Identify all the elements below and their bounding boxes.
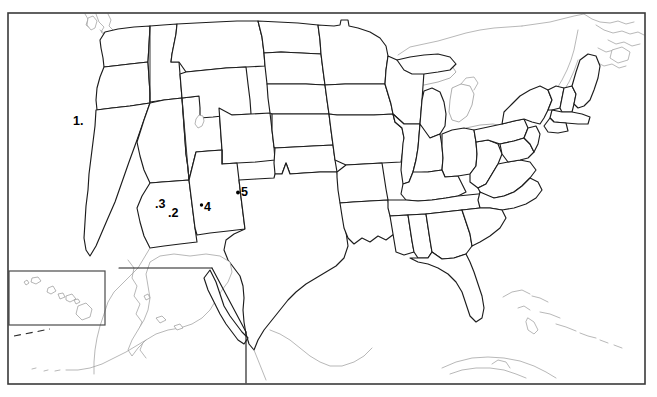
marker-1[interactable]: 1. [73, 114, 83, 128]
marker-1-label: 1. [73, 114, 83, 128]
marker-5-dot [236, 191, 240, 195]
marker-2[interactable]: .2 [168, 206, 178, 220]
marker-3[interactable]: .3 [155, 197, 165, 211]
marker-4-dot [200, 203, 203, 206]
marker-2-label: .2 [168, 206, 178, 220]
marker-5-label: 5 [241, 185, 248, 199]
us-outline-map: 1. .3 .2 4 5 [0, 0, 657, 397]
marker-4-label: 4 [204, 200, 211, 214]
map-canvas: 1. .3 .2 4 5 [0, 0, 657, 397]
marker-3-label: .3 [155, 197, 165, 211]
